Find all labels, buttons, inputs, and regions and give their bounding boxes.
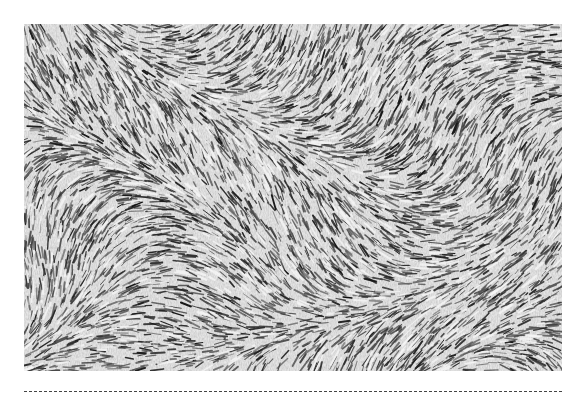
- tissue-texture: [24, 24, 562, 371]
- dashed-separator-line: [24, 391, 562, 392]
- micrograph-image: Dense spindle-cell tissue with swirling …: [24, 24, 562, 371]
